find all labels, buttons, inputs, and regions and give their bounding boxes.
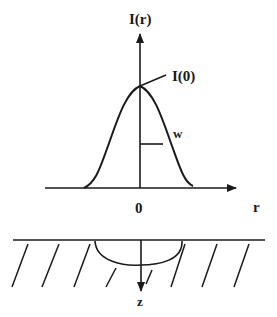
intensity-profile-plot [45, 34, 236, 188]
origin-label: 0 [135, 201, 143, 216]
peak-leader-line [140, 75, 166, 86]
width-label: w [173, 127, 182, 140]
z-axis-label: z [137, 295, 143, 308]
diagram-canvas [0, 0, 277, 317]
y-axis-label: I(r) [129, 12, 152, 27]
peak-label: I(0) [172, 69, 195, 84]
x-axis-label: r [253, 200, 260, 215]
beam-profile-diagram: I(r) I(0) w 0 r z [0, 0, 277, 317]
material-surface-cross-section [12, 240, 265, 291]
heated-zone-boundary [95, 241, 182, 265]
